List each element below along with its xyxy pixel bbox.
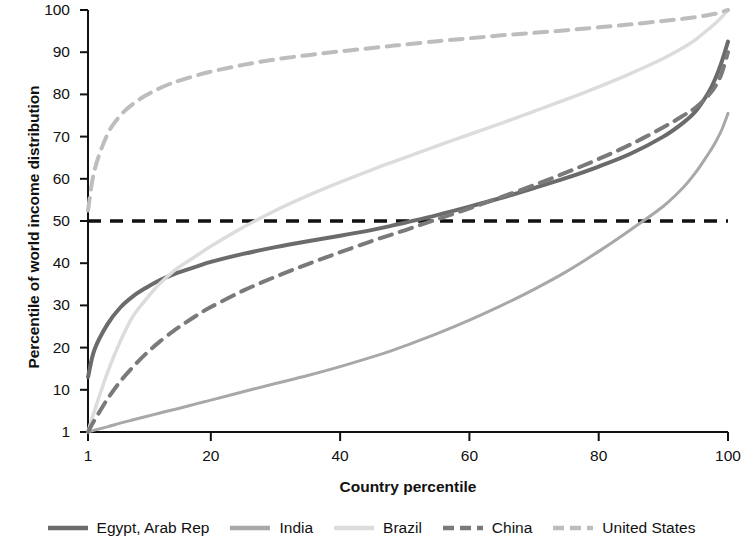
series-line-united-states bbox=[88, 10, 728, 210]
y-tick-label: 100 bbox=[24, 2, 70, 18]
legend-swatch-icon bbox=[333, 521, 375, 535]
x-tick-label: 1 bbox=[58, 448, 118, 464]
x-tick-label: 100 bbox=[698, 448, 742, 464]
x-axis-title: Country percentile bbox=[88, 478, 728, 496]
chart-legend: Egypt, Arab RepIndiaBrazilChinaUnited St… bbox=[0, 512, 742, 544]
x-tick-label: 40 bbox=[310, 448, 370, 464]
legend-item[interactable]: United States bbox=[552, 519, 695, 537]
x-tick-label: 80 bbox=[569, 448, 629, 464]
y-tick-label: 20 bbox=[24, 340, 70, 356]
y-tick-label: 1 bbox=[24, 424, 70, 440]
legend-item[interactable]: Brazil bbox=[333, 519, 422, 537]
x-tick-label: 60 bbox=[439, 448, 499, 464]
legend-swatch-icon bbox=[229, 521, 271, 535]
legend-swatch-icon bbox=[442, 521, 484, 535]
y-tick-label: 80 bbox=[24, 86, 70, 102]
legend-label: India bbox=[279, 519, 313, 537]
series-line-china bbox=[88, 52, 728, 432]
legend-item[interactable]: China bbox=[442, 519, 533, 537]
y-tick-label: 30 bbox=[24, 297, 70, 313]
y-tick-label: 40 bbox=[24, 255, 70, 271]
y-tick-label: 60 bbox=[24, 171, 70, 187]
y-tick-label: 10 bbox=[24, 382, 70, 398]
y-tick-label: 90 bbox=[24, 44, 70, 60]
chart-container: Percentile of world income distribution … bbox=[0, 0, 742, 544]
legend-swatch-icon bbox=[47, 521, 89, 535]
legend-label: Brazil bbox=[383, 519, 422, 537]
legend-label: United States bbox=[602, 519, 695, 537]
legend-item[interactable]: Egypt, Arab Rep bbox=[47, 519, 210, 537]
y-tick-label: 70 bbox=[24, 129, 70, 145]
series-line-egypt-arab-rep bbox=[88, 42, 728, 377]
legend-item[interactable]: India bbox=[229, 519, 313, 537]
legend-label: Egypt, Arab Rep bbox=[97, 519, 210, 537]
y-tick-label: 50 bbox=[24, 213, 70, 229]
x-tick-label: 20 bbox=[181, 448, 241, 464]
legend-swatch-icon bbox=[552, 521, 594, 535]
legend-label: China bbox=[492, 519, 533, 537]
